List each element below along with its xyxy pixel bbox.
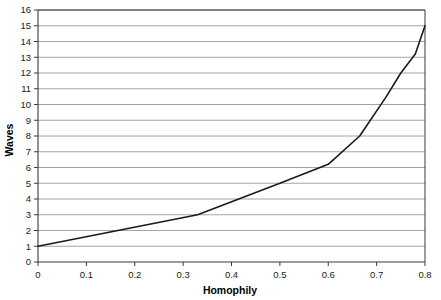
y-axis-tick-label: 8	[26, 130, 31, 141]
y-axis-title: Waves	[3, 123, 15, 156]
x-axis-tick-label: 0.5	[273, 269, 286, 280]
x-axis-tick-label: 0.3	[177, 269, 190, 280]
y-axis-tick-label: 13	[20, 52, 31, 63]
y-axis-tick-label: 0	[26, 256, 31, 267]
y-axis-tick-label: 2	[26, 225, 31, 236]
y-axis-tick-label: 14	[20, 36, 31, 47]
y-axis-tick-label: 3	[26, 209, 31, 220]
y-axis-tick-label: 1	[26, 241, 31, 252]
x-axis-tick-label: 0.7	[370, 269, 383, 280]
y-axis-tick-label: 16	[20, 4, 31, 15]
y-axis-tick-label: 7	[26, 146, 31, 157]
x-axis-tick-label: 0.1	[80, 269, 93, 280]
x-axis-tick-label: 0	[35, 269, 40, 280]
x-axis-title: Homophily	[203, 284, 257, 296]
y-axis-tick-label: 6	[26, 162, 31, 173]
y-axis-tick-label: 4	[26, 193, 31, 204]
y-axis-tick-label: 5	[26, 178, 31, 189]
x-axis-tick-label: 0.4	[225, 269, 238, 280]
y-axis-tick-label: 9	[26, 115, 31, 126]
chart-container: 012345678910111213141516 00.10.20.30.40.…	[0, 0, 441, 300]
y-axis-tick-label: 15	[20, 20, 31, 31]
x-axis-tick-label: 0.2	[128, 269, 141, 280]
y-axis-tick-label: 11	[21, 83, 31, 94]
x-axis-tick-label: 0.8	[418, 269, 431, 280]
chart-background	[0, 0, 441, 300]
y-axis-tick-label: 12	[20, 67, 31, 78]
x-axis-tick-label: 0.6	[322, 269, 335, 280]
y-axis-tick-label: 10	[20, 99, 31, 110]
line-chart: 012345678910111213141516 00.10.20.30.40.…	[0, 0, 441, 300]
